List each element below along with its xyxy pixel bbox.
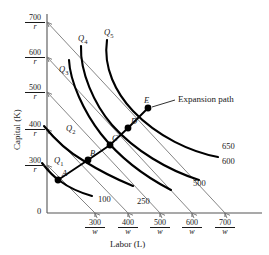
isoquant-label-q3-sub: 3 [65, 69, 68, 76]
x-tick-700-den: w [215, 228, 235, 236]
isoquant-label-q3: Q3 [59, 65, 68, 76]
output-label-500: 500 [193, 179, 206, 188]
x-tick-600-den: w [182, 228, 202, 236]
output-label-100: 100 [98, 195, 111, 204]
y-tick-300-den: r [25, 166, 45, 174]
point-label-d: D [131, 117, 137, 126]
isoquant-expansion-path-figure: Capital (K) Labor (L) 0 300 r 400 r 500 … [0, 0, 269, 255]
x-tick-400: 400 w [118, 219, 138, 236]
isoquant-label-q5-sub: 5 [110, 32, 113, 39]
x-tick-400-den: w [118, 228, 138, 236]
y-tick-600-den: r [25, 58, 45, 66]
x-tick-marks [95, 213, 225, 217]
y-tick-700: 700 r [25, 14, 45, 31]
isoquant-label-q4: Q4 [78, 34, 87, 45]
expansion-path-leader [152, 100, 175, 107]
y-tick-300: 300 r [25, 157, 45, 174]
y-tick-600: 600 r [25, 49, 45, 66]
x-tick-300-den: w [85, 228, 105, 236]
point-e [145, 105, 152, 112]
y-tick-700-den: r [25, 23, 45, 31]
isoquant-label-q2: Q2 [66, 124, 75, 135]
isoquant-label-q4-sub: 4 [84, 38, 87, 45]
output-label-600: 600 [222, 157, 235, 166]
x-axis-title: Labor (L) [110, 240, 145, 249]
x-tick-600: 600 w [182, 219, 202, 236]
output-label-650: 650 [222, 142, 235, 151]
y-tick-400-den: r [25, 130, 45, 138]
point-label-c: C [112, 134, 118, 143]
y-axis-title: Capital (K) [12, 109, 22, 150]
isoquant-label-q1-sub: 1 [60, 160, 63, 167]
isoquant-label-q1: Q1 [54, 156, 63, 167]
y-tick-500-den: r [25, 93, 45, 101]
expansion-path-annotation: Expansion path [178, 95, 234, 104]
point-a [55, 177, 62, 184]
isoquant-label-q2-sub: 2 [72, 128, 75, 135]
origin-label: 0 [37, 207, 41, 216]
x-tick-500-den: w [150, 228, 170, 236]
point-label-a: A [62, 169, 67, 178]
output-label-250: 250 [137, 197, 150, 206]
point-label-e: E [144, 96, 149, 105]
x-tick-300: 300 w [85, 219, 105, 236]
isoquant-label-q5: Q5 [104, 28, 113, 39]
y-tick-400: 400 r [25, 121, 45, 138]
x-tick-700: 700 w [215, 219, 235, 236]
point-label-b: B [90, 149, 95, 158]
y-tick-500: 500 r [25, 84, 45, 101]
x-tick-500: 500 w [150, 219, 170, 236]
